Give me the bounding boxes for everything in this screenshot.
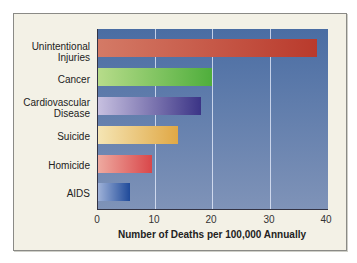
category-label-injuries: UnintentionalInjuries (0, 41, 90, 63)
bar-cancer (98, 68, 212, 86)
bar-aids (98, 183, 130, 201)
bar-suicide (98, 126, 178, 144)
category-label-suicide: Suicide (0, 131, 90, 142)
x-tick-20: 20 (205, 214, 216, 225)
bar-unintentional-injuries (98, 39, 317, 57)
x-tick-0: 0 (94, 214, 100, 225)
x-axis-label: Number of Deaths per 100,000 Annually (97, 229, 327, 240)
bar-homicide (98, 155, 152, 173)
x-tick-30: 30 (263, 214, 274, 225)
label-line: Disease (0, 108, 90, 119)
x-tick-10: 10 (148, 214, 159, 225)
category-label-homicide: Homicide (0, 160, 90, 171)
label-line: Unintentional (0, 41, 90, 52)
label-line: Injuries (0, 52, 90, 63)
plot-area (97, 29, 328, 210)
category-label-cardiovascular: CardiovascularDisease (0, 97, 90, 119)
label-line: Cardiovascular (0, 97, 90, 108)
category-label-cancer: Cancer (0, 74, 90, 85)
category-label-aids: AIDS (0, 188, 90, 199)
x-tick-40: 40 (320, 214, 331, 225)
bar-cardiovascular-disease (98, 97, 201, 115)
